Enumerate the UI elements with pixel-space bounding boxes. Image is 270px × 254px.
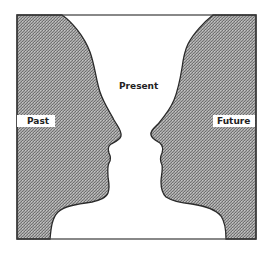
present-label: Present	[119, 80, 158, 92]
rubin-vase-figure	[0, 0, 270, 254]
past-label: Past	[17, 115, 55, 127]
future-label: Future	[213, 115, 255, 127]
